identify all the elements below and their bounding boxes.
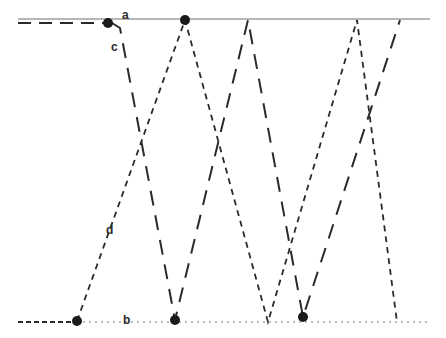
label-d: d — [106, 224, 113, 236]
dot-top-start — [103, 18, 113, 28]
dot-top-peak — [180, 15, 190, 25]
label-c: c — [111, 41, 118, 53]
label-b: b — [123, 314, 130, 326]
dot-bottom-trough-1 — [170, 315, 180, 325]
dot-bottom-start — [72, 316, 82, 326]
zigzag-diagram — [0, 0, 446, 338]
short-dash-zigzag — [77, 20, 397, 322]
label-a: a — [122, 9, 129, 21]
dot-bottom-trough-2 — [298, 312, 308, 322]
